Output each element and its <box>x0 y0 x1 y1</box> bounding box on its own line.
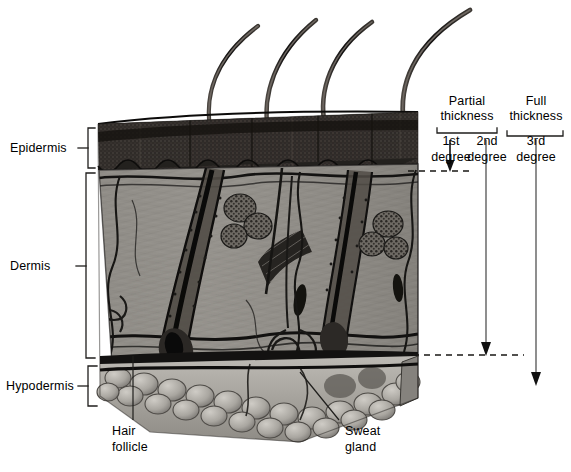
burn-degree-label-third-line2: degree <box>509 150 563 164</box>
dermis-layer <box>90 160 430 375</box>
burn-group-label-partial-line1: Partial <box>432 94 502 108</box>
structure-label-hair-follicle-line1: Hair <box>112 424 172 438</box>
bracket-hypodermis <box>88 366 97 406</box>
burn-degree-label-second-line1: 2nd <box>468 134 506 148</box>
arrow-third-degree <box>531 140 541 386</box>
layer-label-hypodermis: Hypodermis <box>6 379 86 393</box>
skin-illustration <box>0 0 571 472</box>
arrow-second-degree <box>481 140 491 356</box>
bracket-dermis <box>86 173 95 358</box>
structure-label-sweat-gland-line1: Sweat <box>345 424 405 438</box>
burn-depth-markers <box>402 128 563 386</box>
burn-group-label-full-line2: thickness <box>503 109 569 123</box>
skin-cross-section-figure: Epidermis Dermis Hypodermis Hair follicl… <box>0 0 571 472</box>
burn-group-label-partial-line2: thickness <box>432 109 502 123</box>
burn-group-label-full-line1: Full <box>507 94 565 108</box>
structure-label-sweat-gland-line2: gland <box>345 440 405 454</box>
burn-degree-label-first-line1: 1st <box>432 134 470 148</box>
burn-degree-label-second-line2: degree <box>460 150 514 164</box>
layer-label-dermis: Dermis <box>10 259 80 273</box>
bracket-epidermis <box>88 128 95 168</box>
layer-label-epidermis: Epidermis <box>10 141 80 155</box>
structure-label-hair-follicle-line2: follicle <box>112 440 182 454</box>
burn-degree-label-third-line1: 3rd <box>517 134 555 148</box>
bracket-partial-thickness <box>437 128 497 133</box>
